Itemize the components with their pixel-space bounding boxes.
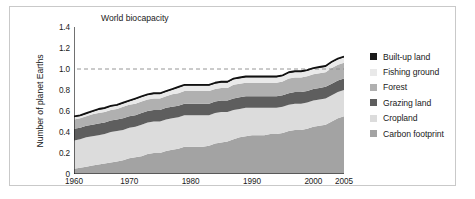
legend-swatch-icon xyxy=(370,53,377,60)
y-tick-label: 1.2 xyxy=(48,44,70,53)
x-tick-label: 1970 xyxy=(120,177,138,186)
legend-label: Built-up land xyxy=(383,52,430,62)
legend-swatch-icon xyxy=(370,84,377,91)
x-tick-label: 2005 xyxy=(335,177,353,186)
y-tick-label: 1.4 xyxy=(48,23,70,32)
chart-frame: Number of planet Earths 00.20.40.60.81.0… xyxy=(9,6,456,186)
legend-swatch-icon xyxy=(370,115,377,122)
legend-item[interactable]: Forest xyxy=(370,80,444,95)
legend-item[interactable]: Grazing land xyxy=(370,95,444,110)
y-tick-label: 1.0 xyxy=(48,65,70,74)
y-axis-title: Number of planet Earths xyxy=(34,27,46,174)
x-tick-label: 2000 xyxy=(304,177,322,186)
plot-area: 00.20.40.60.81.01.21.4 19601970198019902… xyxy=(74,27,344,174)
legend-label: Fishing ground xyxy=(383,67,439,77)
x-tick-label: 1980 xyxy=(182,177,200,186)
legend-swatch-icon xyxy=(370,130,377,137)
legend-item[interactable]: Cropland xyxy=(370,111,444,126)
legend-item[interactable]: Built-up land xyxy=(370,49,444,64)
x-tick-label: 1960 xyxy=(65,177,83,186)
legend-label: Carbon footprint xyxy=(383,129,444,139)
legend-item[interactable]: Fishing ground xyxy=(370,64,444,79)
legend-label: Forest xyxy=(383,82,407,92)
y-axis-title-text: Number of planet Earths xyxy=(35,54,45,147)
legend-swatch-icon xyxy=(370,99,377,106)
y-tick-label: 0.6 xyxy=(48,107,70,116)
chart-legend: Built-up landFishing groundForestGrazing… xyxy=(370,49,444,141)
y-tick-label: 0.2 xyxy=(48,149,70,158)
world-biocapacity-label: World biocapacity xyxy=(101,13,169,23)
legend-swatch-icon xyxy=(370,69,377,76)
y-tick-label: 0.4 xyxy=(48,128,70,137)
x-tick-label: 1990 xyxy=(243,177,261,186)
stacked-area-svg xyxy=(74,27,344,174)
legend-label: Grazing land xyxy=(383,98,431,108)
legend-label: Cropland xyxy=(383,113,417,123)
y-tick-label: 0.8 xyxy=(48,86,70,95)
legend-item[interactable]: Carbon footprint xyxy=(370,126,444,141)
